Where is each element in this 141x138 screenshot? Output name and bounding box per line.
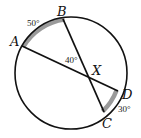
label-d: D <box>121 87 133 102</box>
label-c: C <box>102 116 112 131</box>
circle <box>15 17 127 129</box>
label-a: A <box>9 34 19 49</box>
circle-diagram: A B D C X 50° 30° 40° <box>0 0 141 138</box>
arc-ab-measure: 50° <box>27 18 40 28</box>
label-x: X <box>91 63 102 78</box>
chord-ad <box>22 46 118 91</box>
label-b: B <box>56 4 67 19</box>
arc-cd-measure: 30° <box>118 104 131 114</box>
angle-x-measure: 40° <box>65 55 78 65</box>
